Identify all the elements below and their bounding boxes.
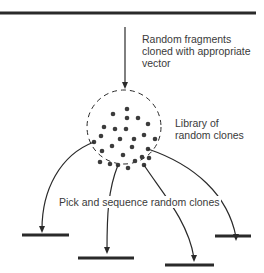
arrowhead-icon [122,82,128,89]
arrowhead-icon [191,255,197,262]
step1-label: Random fragments cloned with appropriate… [142,33,251,69]
pick-arrow-4 [148,149,236,237]
pick-arrow-1 [42,142,94,229]
arrowhead-icon [104,247,110,254]
step1-line-1: Random fragments [142,33,251,45]
step1-line-2: cloned with appropriate [142,45,251,57]
pick-arrow-3 [144,165,194,258]
shotgun-sequencing-diagram: Random fragments cloned with appropriate… [0,0,264,273]
step1-line-3: vector [142,57,251,69]
step2-label: Pick and sequence random clones [58,196,221,208]
library-line-1: Library of [175,117,244,129]
library-circle [87,90,161,164]
library-line-2: random clones [175,129,244,141]
pick-arrowheads [39,226,239,262]
clone-dots [92,107,158,171]
library-label: Library of random clones [175,117,244,141]
arrowhead-icon [39,226,45,233]
